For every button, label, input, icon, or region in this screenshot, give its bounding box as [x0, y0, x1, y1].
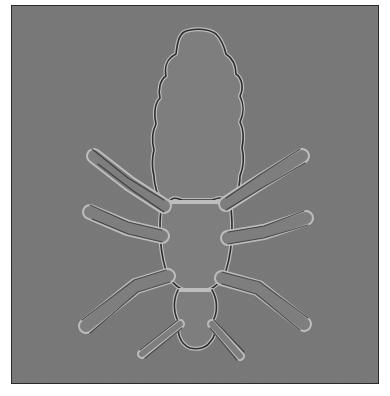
louse-illustration: [12, 6, 379, 384]
specimen-image-frame: [11, 5, 379, 384]
